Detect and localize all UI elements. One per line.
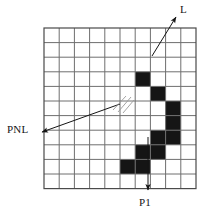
grid-cell-filled (150, 130, 165, 145)
grid-cell-filled (120, 159, 135, 174)
grid-cell-filled (166, 116, 181, 131)
figure-root: L PNL P1 (0, 0, 213, 214)
label-L: L (180, 3, 187, 15)
grid-cell-filled (135, 72, 150, 87)
grid-cell-filled (150, 86, 165, 101)
label-P1: P1 (139, 196, 151, 208)
grid-cell-filled (150, 145, 165, 160)
grid-diagram-svg: L PNL P1 (0, 0, 213, 214)
grid-cell-filled (166, 101, 181, 116)
label-PNL: PNL (7, 123, 28, 135)
grid-cell-filled (166, 130, 181, 145)
